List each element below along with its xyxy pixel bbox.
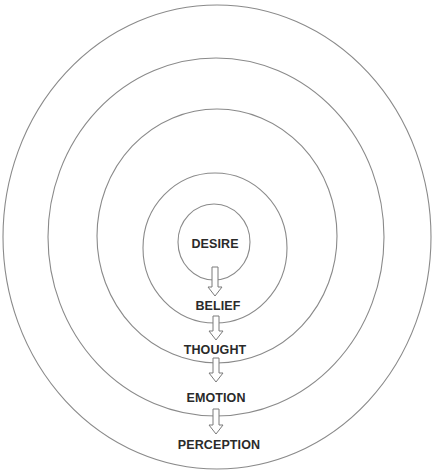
down-arrow-icon [209, 358, 223, 382]
label-belief: BELIEF [193, 299, 242, 313]
label-emotion: EMOTION [184, 391, 247, 405]
down-arrow-icon [209, 409, 223, 434]
label-perception: PERCEPTION [176, 438, 262, 452]
label-desire: DESIRE [189, 237, 240, 251]
label-thought: THOUGHT [182, 343, 249, 357]
down-arrow-icon [208, 267, 222, 296]
down-arrow-icon [209, 316, 223, 340]
